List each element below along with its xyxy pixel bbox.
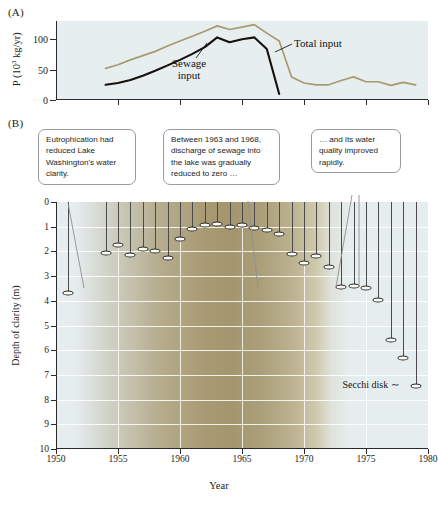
panel-b-x-tick-label: 1975 (357, 454, 376, 464)
secchi-drop-line (366, 202, 367, 288)
secchi-drop-line (205, 202, 206, 225)
secchi-drop-line (403, 202, 404, 358)
panel-a-plot-area: 050100 (56, 21, 428, 100)
panel-a-y-tick-label: 50 (38, 64, 48, 75)
panel-a-x-tick (428, 100, 429, 105)
panel-a-x-tick (366, 100, 367, 105)
secchi-drop-line (254, 202, 255, 228)
panel-b: (B) Eutrophication had reduced Lake Wash… (0, 115, 438, 516)
secchi-disk-marker (63, 291, 74, 296)
panel-a-series-svg (56, 21, 428, 100)
panel-a: (A) P (103 kg/yr) 050100 Total input Sew… (0, 0, 438, 115)
secchi-disk-marker (361, 286, 372, 291)
secchi-drop-line (378, 202, 379, 300)
secchi-drop-line (118, 202, 119, 245)
panel-b-y-tick-label: 10 (40, 444, 50, 454)
panel-a-y-tick-label: 100 (33, 34, 48, 45)
panel-a-y-axis-title-text: P (103 kg/yr) (10, 32, 23, 86)
panel-b-y-tick-label: 1 (44, 222, 49, 232)
secchi-drop-line (168, 202, 169, 258)
secchi-disk-marker (274, 232, 285, 237)
panel-b-y-tick-label: 2 (44, 246, 49, 256)
secchi-disk-marker (162, 255, 173, 260)
secchi-drop-line (304, 202, 305, 263)
secchi-disk-marker (150, 249, 161, 254)
secchi-drop-line (329, 202, 330, 267)
secchi-disk-marker (212, 222, 223, 227)
secchi-drop-line (316, 202, 317, 256)
panel-b-gridline-vertical (428, 202, 429, 449)
secchi-drop-line (279, 202, 280, 234)
panel-b-y-tick-label: 0 (44, 197, 49, 207)
panel-b-x-tick-label: 1980 (419, 454, 438, 464)
secchi-disk-marker (410, 384, 421, 389)
panel-b-x-tick-label: 1970 (295, 454, 314, 464)
secchi-drop-line (230, 202, 231, 227)
panel-a-y-axis-title: P (103 kg/yr) (9, 18, 23, 100)
secchi-disk-marker (237, 223, 248, 228)
secchi-disk-marker (100, 250, 111, 255)
secchi-disk-marker (373, 297, 384, 302)
callout-water-quality: … and its water quality improved rapidly… (311, 129, 401, 173)
secchi-disk-marker (261, 228, 272, 233)
secchi-disk-marker (113, 243, 124, 248)
panel-b-y-axis-title-text: Depth of clarity (m) (10, 285, 21, 365)
secchi-drop-line (130, 202, 131, 255)
secchi-drop-line (416, 202, 417, 386)
panel-b-plot-area: 0123456789101950195519601965197019751980… (56, 202, 428, 449)
secchi-drop-line (180, 202, 181, 239)
panel-b-x-axis-line (56, 448, 428, 449)
secchi-drop-line (341, 202, 342, 287)
panel-a-x-tick (242, 100, 243, 105)
callout-eutrophication: Eutrophication had reduced Lake Washingt… (38, 129, 136, 185)
secchi-drop-line (106, 202, 107, 253)
panel-b-x-tick-label: 1965 (233, 454, 252, 464)
secchi-disk-marker (385, 338, 396, 343)
secchi-drop-line (68, 202, 69, 293)
panel-a-label-sewage-input: Sewage input (172, 58, 206, 81)
secchi-drop-line (143, 202, 144, 249)
secchi-drop-line (354, 202, 355, 286)
panel-b-x-tick-label: 1950 (47, 454, 66, 464)
secchi-disk-marker (199, 223, 210, 228)
panel-b-x-tick-label: 1955 (109, 454, 128, 464)
panel-a-label-total-input: Total input (294, 38, 342, 50)
panel-b-y-tick-label: 6 (44, 345, 49, 355)
panel-b-y-tick-label: 8 (44, 395, 49, 405)
secchi-disk-marker (323, 265, 334, 270)
secchi-disk-marker (125, 253, 136, 258)
secchi-disk-marker (187, 227, 198, 232)
panel-b-letter: (B) (8, 117, 23, 129)
panel-a-x-tick (118, 100, 119, 105)
panel-a-x-tick (304, 100, 305, 105)
secchi-disk-marker (249, 225, 260, 230)
secchi-disk-marker (286, 251, 297, 256)
figure-root: (A) P (103 kg/yr) 050100 Total input Sew… (0, 0, 438, 516)
panel-b-y-tick-label: 9 (44, 419, 49, 429)
callout-sewage-reduction: Between 1963 and 1968, discharge of sewa… (163, 129, 280, 185)
secchi-disk-marker (175, 237, 186, 242)
secchi-drop-line (267, 202, 268, 230)
secchi-disk-marker (336, 285, 347, 290)
secchi-disk-marker (398, 355, 409, 360)
secchi-disk-annotation: Secchi disk ∼ (342, 379, 398, 390)
secchi-drop-line (391, 202, 392, 340)
panel-a-y-tick (50, 100, 56, 101)
secchi-drop-line (192, 202, 193, 229)
panel-a-series-total-input (106, 25, 416, 86)
secchi-disk-marker (224, 224, 235, 229)
panel-b-y-axis-title: Depth of clarity (m) (8, 202, 22, 449)
secchi-disk-marker (348, 283, 359, 288)
secchi-drop-line (242, 202, 243, 225)
panel-a-letter: (A) (8, 6, 24, 18)
panel-b-y-tick-label: 4 (44, 296, 49, 306)
panel-b-x-tick-label: 1960 (171, 454, 190, 464)
secchi-disk-marker (311, 254, 322, 259)
panel-b-y-tick-label: 5 (44, 321, 49, 331)
panel-b-y-axis-line (56, 202, 57, 449)
panel-b-gridline-vertical (242, 202, 243, 449)
secchi-disk-marker (137, 246, 148, 251)
panel-a-y-tick-label: 0 (43, 95, 48, 106)
panel-b-y-tick-label: 7 (44, 370, 49, 380)
secchi-drop-line (155, 202, 156, 251)
